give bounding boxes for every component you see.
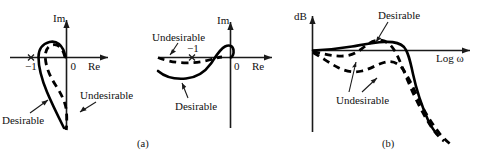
panel-a-desirable-leader xyxy=(30,100,48,113)
panel-a2-origin-label: 0 xyxy=(234,60,240,72)
panel-a-origin-label: 0 xyxy=(71,60,77,72)
panel-b-undesirable-label: Undesirable xyxy=(336,94,389,106)
panel-b-undesirable-curve-1 xyxy=(313,40,444,141)
panel-a2-undesirable-label: Undesirable xyxy=(152,31,205,43)
panel-a-im-axis xyxy=(63,20,69,130)
panel-b-caption: (b) xyxy=(382,138,395,150)
panel-a2-group: Im Re −1 0 Undesirable Desirable xyxy=(152,14,272,128)
panel-a-caption: (a) xyxy=(137,138,149,150)
panel-b-y-axis xyxy=(309,16,315,132)
figure-container: Im Re −1 0 Desirable Undesirable (a) xyxy=(0,0,482,162)
panel-a-group: Im Re −1 0 Desirable Undesirable (a) xyxy=(2,12,149,150)
panel-a-undesirable-leader xyxy=(80,102,96,112)
panel-a-re-axis-label: Re xyxy=(88,60,100,72)
panel-a-desirable-label: Desirable xyxy=(2,114,44,126)
panel-a2-re-axis-label: Re xyxy=(252,60,264,72)
panel-b-y-axis-label: dB xyxy=(294,10,307,22)
figure-svg-canvas: Im Re −1 0 Desirable Undesirable (a) xyxy=(0,0,482,162)
panel-b-desirable-curve xyxy=(313,42,437,134)
panel-a2-desirable-leader xyxy=(182,83,188,98)
panel-a2-im-axis-label: Im xyxy=(217,14,230,26)
panel-a-im-axis-label: Im xyxy=(53,12,66,24)
panel-a2-minus-one-label: −1 xyxy=(187,42,199,54)
panel-a2-desirable-label: Desirable xyxy=(175,100,217,112)
panel-b-undesirable-leader-2 xyxy=(362,78,377,92)
panel-b-group: dB Log ω Desirable Undesirable ( xyxy=(294,9,470,150)
panel-a2-undesirable-leader xyxy=(170,43,178,55)
panel-b-undesirable-leader-1 xyxy=(349,62,356,92)
panel-a-minus-one-label: −1 xyxy=(25,60,37,72)
panel-a2-im-axis xyxy=(227,22,233,128)
panel-b-x-axis-label: Log ω xyxy=(436,52,464,64)
panel-b-desirable-leader xyxy=(376,22,388,42)
panel-b-desirable-label: Desirable xyxy=(378,9,420,21)
panel-a-undesirable-label: Undesirable xyxy=(80,89,133,101)
